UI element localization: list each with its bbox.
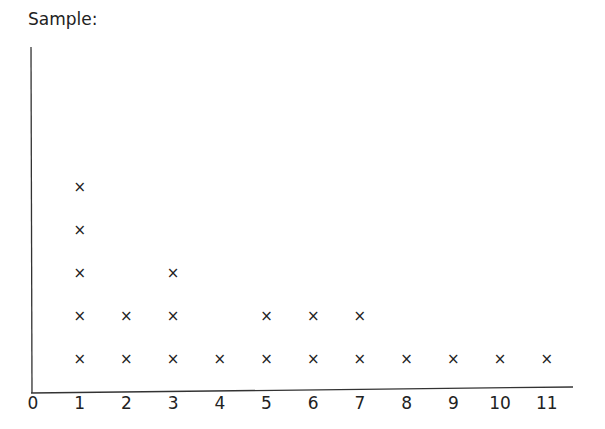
x-mark: × bbox=[167, 350, 180, 368]
x-mark: × bbox=[73, 221, 86, 239]
x-tick-label: 0 bbox=[28, 393, 39, 413]
x-tick-label: 1 bbox=[74, 393, 85, 413]
x-tick-label: 11 bbox=[536, 393, 558, 413]
x-tick-label: 10 bbox=[489, 393, 511, 413]
x-mark: × bbox=[167, 264, 180, 282]
x-mark: × bbox=[260, 307, 273, 325]
x-tick-label: 5 bbox=[261, 393, 272, 413]
x-mark: × bbox=[494, 350, 507, 368]
dot-plot: 01234567891011 ××××××××××××××××××××× bbox=[0, 0, 605, 429]
x-tick-label: 4 bbox=[214, 393, 225, 413]
x-mark: × bbox=[73, 178, 86, 196]
x-mark: × bbox=[354, 307, 367, 325]
x-mark: × bbox=[447, 350, 460, 368]
x-mark: × bbox=[167, 307, 180, 325]
x-mark: × bbox=[540, 350, 553, 368]
x-mark: × bbox=[73, 264, 86, 282]
x-mark: × bbox=[354, 350, 367, 368]
x-mark: × bbox=[260, 350, 273, 368]
x-tick-labels: 01234567891011 bbox=[28, 393, 558, 413]
x-mark: × bbox=[120, 307, 133, 325]
x-mark: × bbox=[307, 307, 320, 325]
x-tick-label: 6 bbox=[308, 393, 319, 413]
x-tick-label: 2 bbox=[121, 393, 132, 413]
x-tick-label: 3 bbox=[168, 393, 179, 413]
y-axis bbox=[31, 47, 32, 393]
data-marks: ××××××××××××××××××××× bbox=[73, 178, 553, 368]
x-tick-label: 8 bbox=[401, 393, 412, 413]
x-mark: × bbox=[214, 350, 227, 368]
x-mark: × bbox=[73, 350, 86, 368]
x-tick-label: 9 bbox=[448, 393, 459, 413]
x-mark: × bbox=[307, 350, 320, 368]
x-mark: × bbox=[73, 307, 86, 325]
x-tick-label: 7 bbox=[354, 393, 365, 413]
x-mark: × bbox=[120, 350, 133, 368]
x-mark: × bbox=[400, 350, 413, 368]
